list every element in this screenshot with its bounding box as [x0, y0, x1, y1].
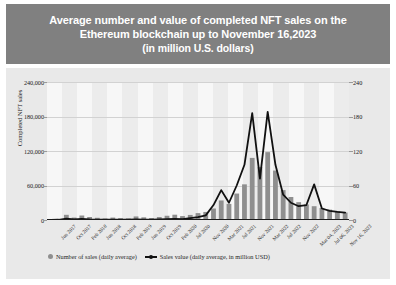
- legend-item-line: Sales value (daily average, in million U…: [145, 253, 270, 260]
- x-axis-tick-label: Oct 2017: [74, 223, 92, 241]
- y-axis-left-tick-label: 60,000: [27, 182, 44, 189]
- y-axis-left-title: Completed NFT sales: [16, 73, 23, 163]
- y-axis-left-tick-mark: [43, 82, 47, 83]
- y-axis-right-tick-mark: [349, 186, 353, 187]
- chart-title-banner: Average number and value of completed NF…: [6, 4, 390, 64]
- y-axis-left-tick-label: 180,000: [24, 113, 44, 120]
- bar: [273, 171, 278, 220]
- x-axis-tick-label: Feb 2018: [89, 223, 107, 241]
- chart-title-line-1: Average number and value of completed NF…: [49, 13, 346, 27]
- y-axis-left-tick-mark: [43, 151, 47, 152]
- chart-page: Average number and value of completed NF…: [0, 0, 396, 285]
- x-axis-tick-label: Jul 2020: [195, 223, 212, 240]
- bar: [227, 204, 232, 220]
- y-axis-right-tick-mark: [349, 117, 353, 118]
- y-axis-left-tick-mark: [43, 186, 47, 187]
- bar: [265, 152, 270, 220]
- y-axis-left-tick-mark: [43, 220, 47, 221]
- bar: [250, 158, 255, 220]
- chart-card: Completed NFT sales 060,000120,000180,00…: [6, 68, 390, 279]
- y-axis-right-tick-label: 240: [353, 79, 362, 86]
- bar: [242, 184, 247, 220]
- y-axis-right-tick-label: 180: [353, 113, 362, 120]
- chart-series: [47, 82, 349, 220]
- bar: [234, 194, 239, 220]
- bar: [219, 200, 224, 220]
- chart-title-line-2: Ethereum blockchain up to November 16,20…: [80, 27, 317, 41]
- y-axis-right-tick-label: 0: [353, 217, 356, 224]
- circle-marker-icon: [48, 254, 53, 259]
- line-marker-icon: [145, 254, 157, 259]
- chart-legend: Number of sales (daily average) Sales va…: [48, 253, 270, 260]
- x-axis-tick-label: Jun 2019: [150, 223, 168, 241]
- x-axis-tick-label: Oct 2019: [165, 223, 183, 241]
- y-axis-right-tick-mark: [349, 151, 353, 152]
- y-axis-left-tick-mark: [43, 117, 47, 118]
- y-axis-right-tick-mark: [349, 82, 353, 83]
- x-axis-tick-label: Feb 2019: [135, 223, 153, 241]
- plot-area: [47, 82, 349, 220]
- y-axis-left-tick-label: 120,000: [24, 148, 44, 155]
- x-axis-tick-label: Nov 2022: [301, 223, 320, 242]
- chart-title-line-3: (in million U.S. dollars): [142, 41, 253, 55]
- legend-item-bars: Number of sales (daily average): [48, 253, 137, 260]
- x-axis-tick-label: Feb 2020: [180, 223, 198, 241]
- x-axis-tick-label: Jun 2017: [59, 223, 77, 241]
- y-axis-right-tick-label: 120: [353, 148, 362, 155]
- x-axis-tick-label: Nov 2020: [211, 223, 230, 242]
- y-axis-right-tick-label: 60: [353, 182, 359, 189]
- x-axis-line: [47, 219, 349, 220]
- legend-label-bars: Number of sales (daily average): [56, 253, 137, 260]
- y-axis-right-tick-mark: [349, 220, 353, 221]
- x-axis-tick-label: Oct 2018: [120, 223, 138, 241]
- legend-label-line: Sales value (daily average, in million U…: [160, 253, 270, 260]
- y-axis-left-tick-label: 240,000: [24, 79, 44, 86]
